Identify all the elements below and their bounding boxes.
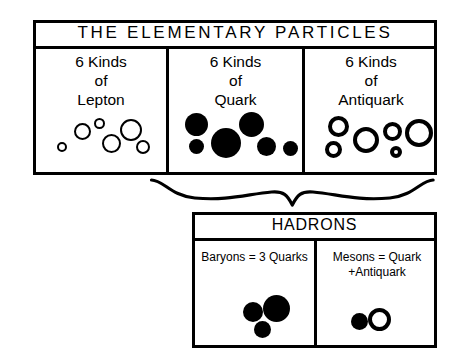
meson-particle-group bbox=[0, 0, 466, 364]
particle-physics-diagram: THE ELEMENTARY PARTICLES 6 Kinds of Lept… bbox=[0, 0, 466, 364]
meson-particle-2 bbox=[368, 308, 391, 331]
meson-particle-1 bbox=[351, 313, 368, 330]
